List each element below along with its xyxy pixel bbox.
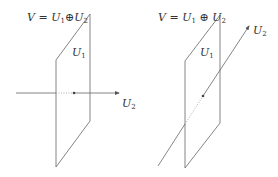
origin-dot-left xyxy=(73,92,76,95)
line-u2-right-back xyxy=(158,124,185,166)
plane-u1-left xyxy=(56,14,90,167)
line-label-right: U2 xyxy=(253,25,267,38)
line-u2-right-hidden xyxy=(185,96,203,124)
label-sub: 2 xyxy=(262,30,266,38)
formula-u2-sub: 2 xyxy=(221,17,225,25)
right-figure xyxy=(158,15,249,168)
label-base: U xyxy=(253,24,262,37)
formula-eq: = xyxy=(166,11,182,24)
formula-op: ⊕ xyxy=(196,11,212,24)
line-label-left: U2 xyxy=(122,98,136,111)
label-base: U xyxy=(72,46,81,59)
plane-label-left: U1 xyxy=(72,47,86,60)
formula-left: V = U1⊕U2 xyxy=(27,12,88,25)
formula-op: ⊕ xyxy=(65,11,74,24)
label-sub: 2 xyxy=(131,103,135,111)
plane-u1-right xyxy=(185,15,220,168)
label-sub: 1 xyxy=(209,52,213,60)
formula-lhs: V xyxy=(158,11,166,24)
formula-eq: = xyxy=(35,11,51,24)
line-u2-right-front xyxy=(203,26,249,96)
left-figure xyxy=(16,14,119,167)
label-sub: 1 xyxy=(81,52,85,60)
direct-sum-diagram xyxy=(0,0,278,177)
label-base: U xyxy=(122,97,131,110)
formula-u2-sub: 2 xyxy=(83,17,87,25)
formula-lhs: V xyxy=(27,11,35,24)
formula-right: V = U1 ⊕ U2 xyxy=(158,12,226,25)
label-base: U xyxy=(200,46,209,59)
origin-dot-right xyxy=(202,95,205,98)
plane-label-right: U1 xyxy=(200,47,214,60)
